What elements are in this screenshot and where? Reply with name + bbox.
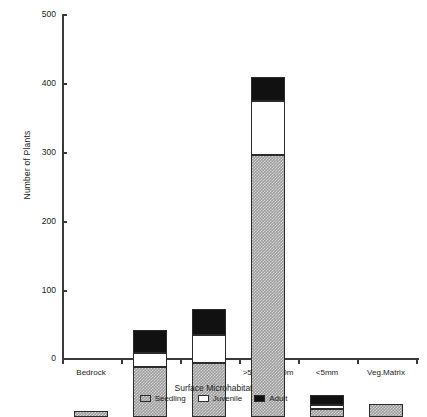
x-tick-6 [416,359,418,364]
y-tick-100 [62,290,67,292]
bar-gt100mm [133,58,167,417]
bar-lt5mm [310,58,344,417]
bar-segment-adult [133,330,167,353]
bar-gt5mm-lt10m [251,58,285,417]
x-tick-3 [239,359,241,364]
y-axis-line [62,14,64,359]
bar-segment-juvenile [133,353,167,367]
y-tick-300 [62,152,67,154]
y-tick-label-500: 500 [22,10,56,18]
bar-segment-juvenile [310,405,344,409]
bar-segment-seedling [369,404,403,417]
y-tick-label-400: 400 [22,79,56,87]
hatched-gray-swatch-icon [140,395,151,402]
x-tick-1 [121,359,123,364]
bar-segment-seedling [251,155,285,417]
legend-label-seedling: Seedling [155,394,186,403]
legend-label-adult: Adult [269,394,287,403]
bar-bedrock [74,58,108,417]
chart-legend: Seedling Juvenile Adult [0,394,427,403]
bar-segment-adult [251,77,285,101]
y-tick-label-0: 0 [22,354,56,362]
legend-label-juvenile: Juvenile [213,394,242,403]
x-tick-5 [357,359,359,364]
bar-segment-seedling [310,409,344,417]
bar-segment-juvenile [192,335,226,363]
bar-segment-adult [192,309,226,335]
bar-segment-juvenile [251,101,285,155]
y-tick-500 [62,14,67,16]
y-tick-label-200: 200 [22,217,56,225]
bar-mosaic [192,58,226,417]
x-tick-4 [298,359,300,364]
legend-item-seedling: Seedling [140,394,186,403]
x-axis-line [62,358,419,360]
bar-vegmatrix [369,58,403,417]
white-swatch-icon [198,395,209,402]
x-tick-2 [180,359,182,364]
y-tick-label-300: 300 [22,148,56,156]
y-tick-label-100: 100 [22,286,56,294]
x-axis-title: Surface Microhabitat [0,383,427,393]
y-axis-title: Number of Plants [22,105,32,225]
bar-segment-seedling [74,411,108,417]
legend-item-juvenile: Juvenile [198,394,242,403]
x-tick-0 [62,359,64,364]
stacked-bar-chart: Number of Plants 500 400 300 200 100 0 B… [0,0,427,417]
y-tick-400 [62,83,67,85]
black-swatch-icon [254,395,265,402]
legend-item-adult: Adult [254,394,287,403]
y-tick-200 [62,221,67,223]
